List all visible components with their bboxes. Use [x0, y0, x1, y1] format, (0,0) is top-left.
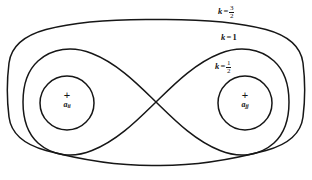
contour-label-k-3-2-numerator: 3 [229, 5, 234, 12]
contour-label-k-3-2-denominator: 2 [229, 13, 234, 20]
contour-label-k-1-2-denominator: 2 [226, 68, 231, 75]
contour-label-k-3-2-fraction: 3 2 [229, 5, 234, 21]
center-marker-left: + aii [47, 92, 87, 111]
contour-curve-k-1-left-lobe [23, 49, 156, 155]
contour-label-k-3-2-equals: = [223, 6, 228, 16]
contour-label-k-1-2-var: k [215, 61, 219, 71]
contour-label-k-1-2-fraction: 1 2 [226, 60, 231, 76]
plus-icon: + [47, 92, 87, 99]
contour-canvas [0, 0, 312, 180]
contour-label-k-1-value: 1 [232, 32, 236, 42]
center-label-left-subscript: ii [67, 103, 70, 109]
contour-label-k-1-equals: = [226, 32, 231, 42]
center-label-right-subscript: jj [245, 103, 248, 109]
contour-label-k-1-var: k [221, 32, 225, 42]
contour-label-k-1: k=1 [221, 33, 237, 42]
center-label-right: ajj [225, 100, 265, 111]
plus-icon: + [225, 92, 265, 99]
contour-label-k-1-2-numerator: 1 [226, 60, 231, 67]
center-marker-right: + ajj [225, 92, 265, 111]
contour-label-k-1-2: k= 1 2 [215, 59, 231, 75]
contour-label-k-1-2-equals: = [220, 61, 225, 71]
contour-label-k-3-2: k= 3 2 [218, 4, 234, 20]
center-label-left: aii [47, 100, 87, 111]
contour-figure: k= 3 2 k=1 k= 1 2 + aii + ajj [0, 0, 312, 180]
contour-label-k-3-2-var: k [218, 6, 222, 16]
